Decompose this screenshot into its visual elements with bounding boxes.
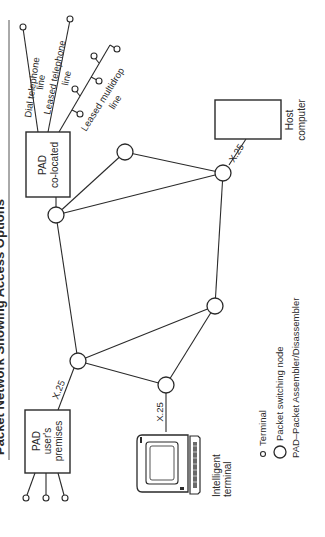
pad-user-x25-label: X.25 (50, 379, 68, 401)
host-x25-label: X.25 (226, 142, 246, 164)
link-n1-n5 (56, 215, 78, 361)
node-icon (207, 298, 223, 314)
node-icon (158, 377, 174, 393)
node-icon (70, 353, 86, 369)
terminal-icon (72, 86, 78, 92)
terminal-icon (96, 78, 102, 84)
terminal-icon (77, 111, 83, 117)
terminal-icon (20, 24, 26, 30)
legend-node-icon (274, 446, 286, 458)
network-links (56, 139, 246, 432)
pad-colocated-line2: co-located (49, 142, 60, 188)
legend-node-text: Packet switching node (274, 346, 285, 441)
pad-user-terminal-line (27, 473, 35, 495)
terminal-x25-label: X.25 (154, 402, 165, 422)
host-computer-box (215, 100, 281, 139)
node-icon (215, 165, 231, 181)
intelligent-terminal-group: X.25 Intelligent terminal (137, 402, 233, 497)
link-n2-n3 (125, 152, 223, 173)
link-n5-n6 (78, 361, 166, 385)
terminal-icon (67, 16, 73, 22)
pad-colocated-box (26, 132, 70, 197)
pad-user-line3: premises (53, 421, 64, 462)
terminal-icon (114, 46, 120, 52)
computer-terminal-icon (137, 435, 200, 494)
terminal-icon (43, 495, 49, 501)
node-icon (48, 207, 64, 223)
terminal-label-1: Intelligent (211, 454, 222, 497)
pad-colocated-line1: PAD (37, 155, 48, 175)
link-n6-n4 (166, 306, 215, 385)
host-label-1: Host (284, 109, 295, 130)
leased-line-label-2: line (59, 70, 73, 87)
title-group: Packet Network Showing Access Options (0, 20, 9, 460)
terminal-label-2: terminal (222, 461, 233, 497)
network-diagram: Packet Network Showing Access Options (0, 0, 325, 537)
legend-terminal-text: Terminal (257, 410, 268, 446)
pad-colocated-group: PAD co-located Dial telephone line Lease… (20, 16, 126, 197)
legend: Terminal Packet switching node PAD–Packe… (257, 298, 301, 458)
link-n1-n3 (56, 173, 223, 215)
legend-pad-text: PAD–Packet Assembler/Disassembler (290, 298, 301, 458)
terminal-icon (23, 495, 29, 501)
link-n5-n4 (78, 306, 215, 361)
host-computer-group: Host computer X.25 (215, 98, 307, 164)
terminal-icon (91, 53, 97, 59)
pad-user-terminal-line (58, 473, 64, 495)
legend-terminal-icon (261, 452, 266, 457)
node-icon (117, 144, 133, 160)
packet-switching-nodes (48, 144, 231, 393)
diagram-title: Packet Network Showing Access Options (0, 199, 7, 455)
terminal-icon (62, 495, 68, 501)
pad-user-line1: PAD (31, 431, 42, 451)
pad-user-line2: user's (42, 428, 53, 454)
link-n3-n4 (215, 173, 223, 306)
dial-line-label-2: line (34, 74, 47, 90)
host-label-2: computer (296, 98, 307, 140)
